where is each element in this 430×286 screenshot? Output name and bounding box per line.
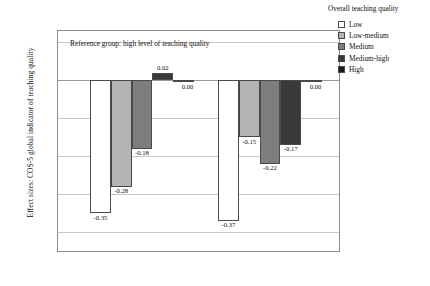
bar-mathematics-low-medium[interactable] xyxy=(111,80,132,186)
bar-mathematics-low[interactable] xyxy=(90,80,111,213)
bar-value-label: -0.22 xyxy=(263,164,277,171)
legend-item-low[interactable]: Low xyxy=(338,20,430,29)
bar-value-label: -0.15 xyxy=(242,138,256,145)
legend-swatch-icon xyxy=(338,43,345,50)
chart-figure: Effect sizes: COS-5 global indicator of … xyxy=(0,0,430,286)
bar-reading-medium[interactable] xyxy=(260,80,281,163)
legend-swatch-icon xyxy=(338,32,345,39)
gridline xyxy=(58,232,339,233)
bar-value-label: -0.28 xyxy=(114,187,128,194)
bar-value-label: 0.02 xyxy=(157,64,169,71)
plot-inner: 0.100.00-0.10-0.20-0.30-0.40Reference gr… xyxy=(58,31,339,251)
bar-value-label: -0.37 xyxy=(221,221,235,228)
legend-title: Overall teaching quality xyxy=(328,4,430,13)
plot-area: 0.100.00-0.10-0.20-0.30-0.40Reference gr… xyxy=(57,30,340,252)
bar-reading-low-medium[interactable] xyxy=(239,80,260,137)
bar-value-label: 0.00 xyxy=(182,83,194,90)
legend-item-medium[interactable]: Medium xyxy=(338,42,430,51)
legend-entries: LowLow-mediumMediumMedium-highHigh xyxy=(338,20,430,74)
bar-mathematics-medium[interactable] xyxy=(132,80,153,148)
y-axis-title: Effect sizes: COS-5 global indicator of … xyxy=(26,8,35,258)
legend-item-label: High xyxy=(349,65,364,74)
legend-swatch-icon xyxy=(338,55,345,62)
bar-reading-low[interactable] xyxy=(218,80,239,220)
legend-item-label: Medium-high xyxy=(349,54,389,63)
legend-swatch-icon xyxy=(338,21,345,28)
legend-swatch-icon xyxy=(338,66,345,73)
bar-reading-medium-high[interactable] xyxy=(280,80,301,144)
legend-item-low-medium[interactable]: Low-medium xyxy=(338,31,430,40)
legend-item-high[interactable]: High xyxy=(338,65,430,74)
reference-group-annotation: Reference group: high level of teaching … xyxy=(70,39,210,48)
bar-value-label: -0.17 xyxy=(284,145,298,152)
bar-value-label: 0.00 xyxy=(310,83,322,90)
legend-item-medium-high[interactable]: Medium-high xyxy=(338,54,430,63)
legend-item-label: Low xyxy=(349,20,362,29)
bar-mathematics-medium-high[interactable] xyxy=(152,73,173,81)
legend-item-label: Medium xyxy=(349,42,374,51)
legend-item-label: Low-medium xyxy=(349,31,389,40)
chart-legend: Overall teaching quality LowLow-mediumMe… xyxy=(338,4,430,76)
bar-value-label: -0.18 xyxy=(135,149,149,156)
bar-value-label: -0.35 xyxy=(93,214,107,221)
